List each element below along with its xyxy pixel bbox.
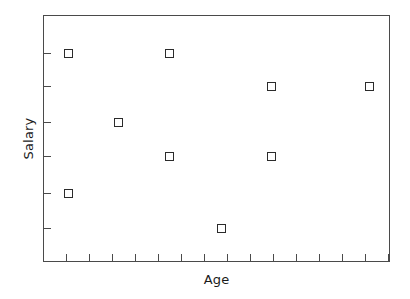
x-tick-14 [388, 254, 389, 261]
y-tick-1 [44, 86, 51, 87]
x-tick-0 [66, 254, 67, 261]
x-tick-9 [273, 254, 274, 261]
plot-area [43, 15, 390, 262]
x-axis-label: Age [43, 272, 390, 287]
data-point [217, 224, 226, 233]
x-tick-8 [250, 254, 251, 261]
y-tick-4 [44, 193, 51, 194]
data-point [165, 152, 174, 161]
data-point [64, 49, 73, 58]
x-tick-11 [319, 254, 320, 261]
scatter-plot-figure: Salary Age [0, 0, 410, 299]
data-point [365, 82, 374, 91]
y-tick-0 [44, 53, 51, 54]
y-tick-2 [44, 122, 51, 123]
x-tick-5 [181, 254, 182, 261]
x-tick-4 [158, 254, 159, 261]
x-tick-3 [135, 254, 136, 261]
x-tick-13 [365, 254, 366, 261]
y-tick-5 [44, 228, 51, 229]
x-tick-10 [296, 254, 297, 261]
x-tick-2 [112, 254, 113, 261]
x-tick-12 [342, 254, 343, 261]
y-axis-label: Salary [18, 15, 38, 262]
x-tick-7 [227, 254, 228, 261]
data-point [267, 82, 276, 91]
data-point [267, 152, 276, 161]
data-point [114, 118, 123, 127]
x-tick-1 [89, 254, 90, 261]
x-tick-6 [204, 254, 205, 261]
data-point [64, 189, 73, 198]
data-point [165, 49, 174, 58]
y-tick-3 [44, 156, 51, 157]
